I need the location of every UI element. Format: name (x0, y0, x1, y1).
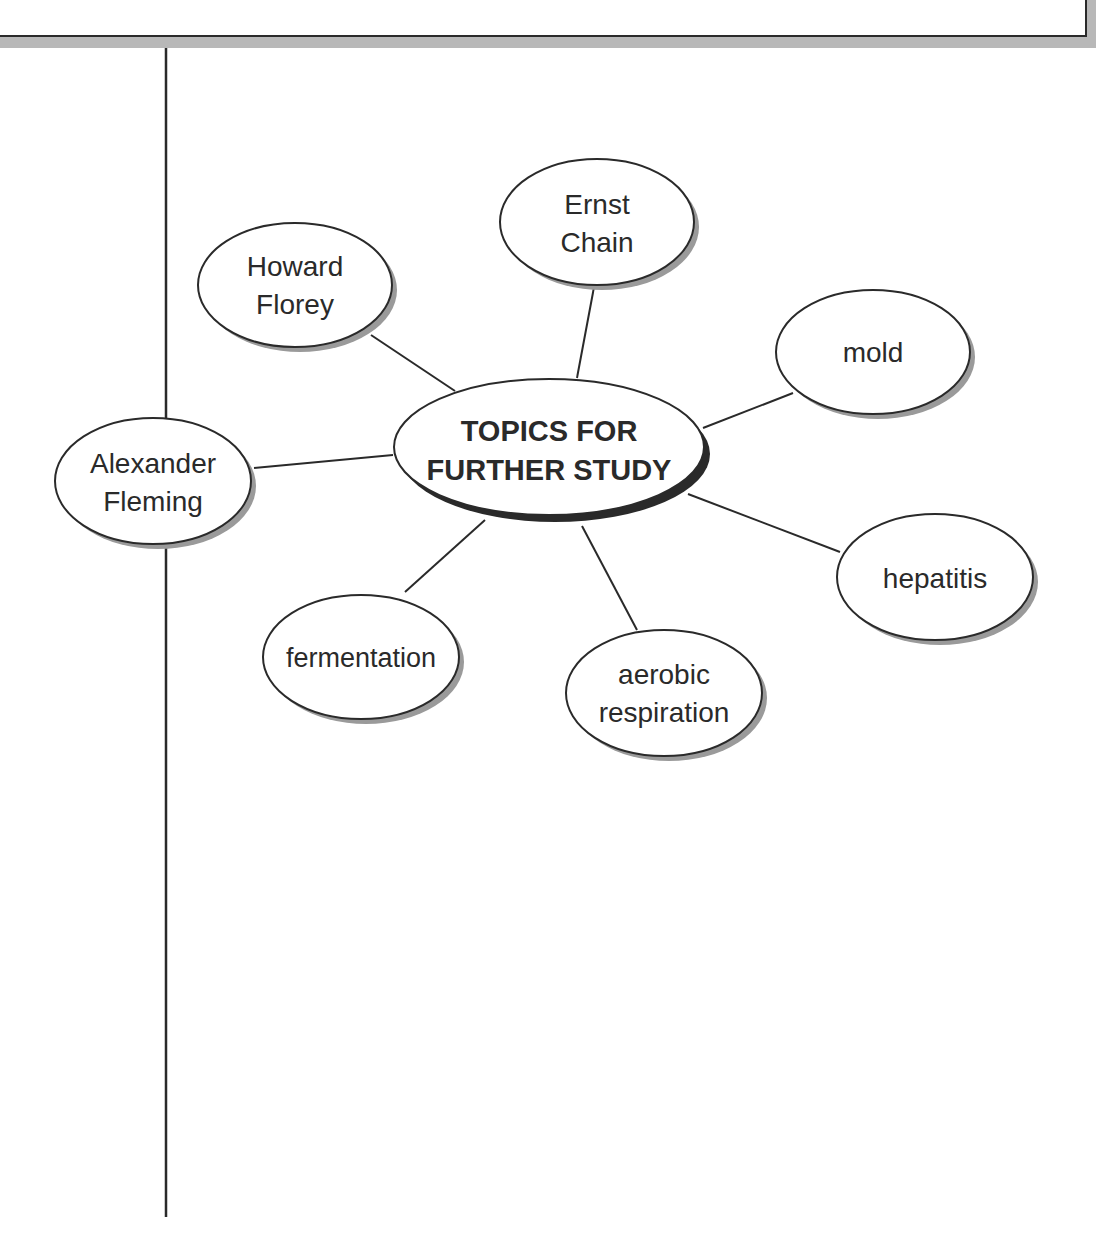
node-label-line1: hepatitis (883, 563, 987, 594)
connector-howard-florey (371, 335, 455, 391)
node-label-line2: Chain (560, 227, 633, 258)
node-label-line1: aerobic (618, 659, 710, 690)
node-label-line2: Florey (256, 289, 334, 320)
node-fermentation: fermentation (263, 595, 464, 724)
central-label-line1: TOPICS FOR (461, 415, 638, 447)
connector-ernst-chain (577, 287, 594, 378)
connector-alexander-fleming (254, 455, 393, 468)
connector-hepatitis (688, 494, 840, 552)
node-label-line1: fermentation (286, 643, 436, 673)
node-ernst-chain: Ernst Chain (500, 159, 699, 290)
node-label-line2: respiration (599, 697, 730, 728)
central-label-line2: FURTHER STUDY (427, 454, 672, 486)
node-alexander-fleming: Alexander Fleming (55, 418, 256, 549)
connector-fermentation (405, 520, 485, 592)
node-label-line1: Alexander (90, 448, 216, 479)
node-label-line2: Fleming (103, 486, 203, 517)
central-topic-node: TOPICS FOR FURTHER STUDY (394, 379, 710, 522)
node-mold: mold (776, 290, 975, 419)
node-label-line1: mold (843, 337, 904, 368)
connector-aerobic-respiration (582, 526, 637, 630)
node-label-line1: Howard (247, 251, 343, 282)
connector-mold (703, 393, 793, 428)
node-aerobic-respiration: aerobic respiration (566, 630, 767, 761)
node-howard-florey: Howard Florey (198, 223, 397, 352)
concept-web-diagram: Howard Florey Ernst Chain mold Alexander… (0, 0, 1110, 1244)
node-label-line1: Ernst (564, 189, 630, 220)
node-hepatitis: hepatitis (837, 514, 1038, 645)
